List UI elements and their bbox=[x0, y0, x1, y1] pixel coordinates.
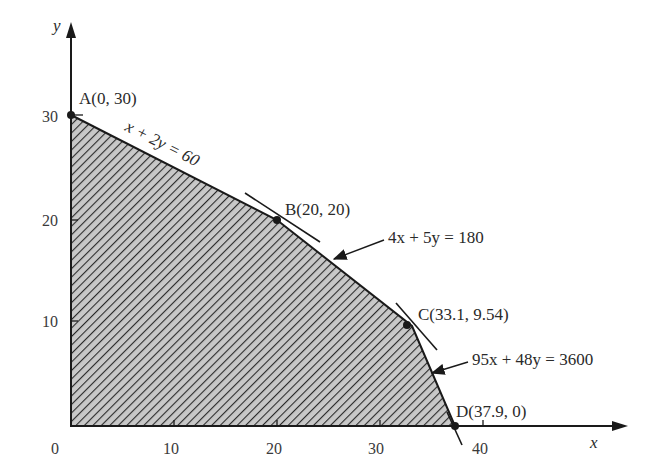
y-axis-label: y bbox=[51, 16, 61, 35]
point-b-marker bbox=[273, 216, 281, 224]
point-c-label: C(33.1, 9.54) bbox=[418, 305, 509, 324]
point-b-label: B(20, 20) bbox=[285, 200, 350, 219]
point-d-marker bbox=[451, 422, 459, 430]
feasible-region bbox=[71, 115, 455, 426]
x-tick-label-40: 40 bbox=[472, 440, 488, 457]
x-tick-label-20: 20 bbox=[266, 440, 282, 457]
y-tick-label-10: 10 bbox=[42, 313, 58, 330]
x-tick-label-0: 0 bbox=[51, 440, 59, 457]
constraint-3-pointer-arrow bbox=[432, 362, 468, 373]
x-tick-label-10: 10 bbox=[163, 440, 179, 457]
point-a-marker bbox=[67, 111, 75, 119]
x-tick-label-30: 30 bbox=[368, 440, 384, 457]
x-axis-arrow-icon bbox=[612, 421, 628, 431]
x-axis-label: x bbox=[589, 433, 598, 452]
lp-feasible-region-diagram: 0 10 20 30 40 10 20 30 x y A(0, 30) B(20… bbox=[0, 0, 652, 475]
point-c-marker bbox=[403, 321, 411, 329]
y-tick-label-20: 20 bbox=[42, 212, 58, 229]
point-a-label: A(0, 30) bbox=[79, 89, 137, 108]
constraint-label-2: 4x + 5y = 180 bbox=[388, 228, 484, 247]
constraint-label-3: 95x + 48y = 3600 bbox=[472, 350, 593, 369]
point-d-label: D(37.9, 0) bbox=[456, 402, 526, 421]
y-axis-arrow-icon bbox=[66, 22, 76, 38]
constraint-2-pointer-arrow bbox=[334, 240, 384, 259]
y-tick-label-30: 30 bbox=[42, 108, 58, 125]
